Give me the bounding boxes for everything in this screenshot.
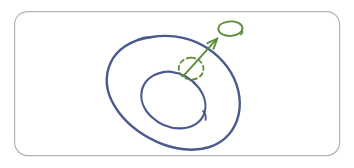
card-frame xyxy=(15,12,340,156)
screenshot-canvas: A rounded rectangular card containing a … xyxy=(0,0,354,168)
sketch-diagram xyxy=(0,0,354,168)
